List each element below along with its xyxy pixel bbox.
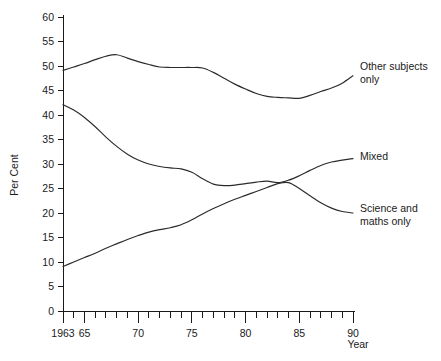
series-label-3: maths only — [360, 215, 412, 227]
y-tick-label: 0 — [48, 305, 54, 317]
y-tick-label: 60 — [42, 11, 54, 23]
series-label-1: only — [360, 73, 380, 85]
y-tick-label: 30 — [42, 158, 54, 170]
y-tick-label: 25 — [42, 182, 54, 194]
x-axis-title: Year — [347, 338, 369, 350]
series-label-3: Science and — [360, 202, 418, 214]
x-tick-label: 80 — [240, 327, 252, 339]
x-tick-label: 1963 — [51, 327, 75, 339]
y-tick-label: 45 — [42, 84, 54, 96]
x-axis: 1963657075808590 — [51, 311, 359, 339]
line-chart: 051015202530354045505560 196365707580859… — [0, 0, 441, 361]
x-tick-label: 85 — [293, 327, 305, 339]
x-tick-label: 65 — [79, 327, 91, 339]
y-tick-label: 20 — [42, 207, 54, 219]
series-lines — [63, 55, 353, 267]
series-label-2: Mixed — [360, 150, 388, 162]
y-axis-title: Per Cent — [8, 154, 20, 196]
series-line — [63, 55, 353, 99]
series-line — [63, 182, 353, 266]
x-tick-label: 75 — [186, 327, 198, 339]
y-axis: 051015202530354045505560 — [42, 11, 63, 317]
y-tick-label: 35 — [42, 133, 54, 145]
y-tick-label: 10 — [42, 256, 54, 268]
y-tick-label: 55 — [42, 35, 54, 47]
y-tick-label: 50 — [42, 60, 54, 72]
chart-container: 051015202530354045505560 196365707580859… — [0, 0, 441, 361]
y-tick-label: 15 — [42, 231, 54, 243]
series-line — [63, 105, 353, 186]
series-label-1: Other subjects — [360, 60, 428, 72]
y-tick-label: 5 — [48, 280, 54, 292]
x-tick-label: 70 — [132, 327, 144, 339]
series-labels: Other subjectsonlyMixedScience andmaths … — [360, 60, 428, 227]
y-tick-label: 40 — [42, 109, 54, 121]
